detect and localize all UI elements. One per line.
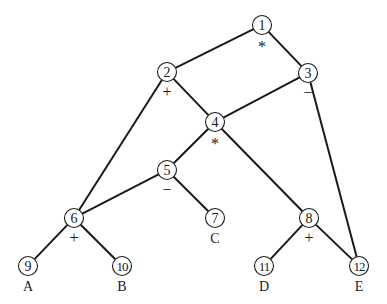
edge-2-4 xyxy=(174,79,209,115)
node-number: 9 xyxy=(25,259,32,274)
leaf-label: A xyxy=(23,279,34,294)
edge-6-9 xyxy=(35,225,68,259)
edge-4-8 xyxy=(222,129,303,211)
edge-2-6 xyxy=(79,80,162,210)
edge-8-11 xyxy=(271,225,303,259)
leaf-label: B xyxy=(117,279,126,294)
node-7: 7C xyxy=(206,209,225,247)
edge-1-3 xyxy=(269,32,302,66)
leaf-label: C xyxy=(210,231,219,246)
node-number: 10 xyxy=(117,259,129,274)
node-11: 11D xyxy=(255,257,274,295)
operator-label: * xyxy=(211,135,219,152)
nodes: 1*2+3−4*5−6+7C8+9A10B11D12E xyxy=(19,16,369,295)
node-6: 6+ xyxy=(65,209,84,247)
expression-dag-diagram: 1*2+3−4*5−6+7C8+9A10B11D12E xyxy=(0,0,387,304)
node-number: 6 xyxy=(71,211,78,226)
node-9: 9A xyxy=(19,257,38,295)
node-8: 8+ xyxy=(300,209,319,247)
edge-5-6 xyxy=(82,174,158,213)
operator-label: − xyxy=(303,84,312,101)
node-4: 4* xyxy=(206,113,225,153)
edge-3-4 xyxy=(223,77,299,117)
node-number: 4 xyxy=(212,115,219,130)
leaf-label: E xyxy=(355,279,364,294)
node-number: 3 xyxy=(305,66,312,81)
operator-label: + xyxy=(162,83,171,100)
node-number: 1 xyxy=(259,18,266,33)
edge-4-5 xyxy=(174,129,209,164)
edge-8-12 xyxy=(316,225,352,260)
node-number: 5 xyxy=(164,163,171,178)
edge-5-7 xyxy=(174,177,209,212)
edge-3-12 xyxy=(310,82,356,257)
node-10: 10B xyxy=(113,257,132,295)
node-1: 1* xyxy=(253,16,272,56)
operator-label: − xyxy=(162,181,171,198)
edge-6-10 xyxy=(81,225,116,260)
operator-label: + xyxy=(304,229,313,246)
node-number: 2 xyxy=(164,65,171,80)
node-number: 7 xyxy=(212,211,219,226)
node-number: 8 xyxy=(306,211,313,226)
node-number: 12 xyxy=(354,259,366,274)
leaf-label: D xyxy=(259,279,269,294)
operator-label: + xyxy=(69,229,78,246)
edge-1-2 xyxy=(176,29,254,68)
operator-label: * xyxy=(258,38,266,55)
node-5: 5− xyxy=(158,161,177,199)
node-12: 12E xyxy=(350,257,369,295)
node-number: 11 xyxy=(259,259,270,274)
